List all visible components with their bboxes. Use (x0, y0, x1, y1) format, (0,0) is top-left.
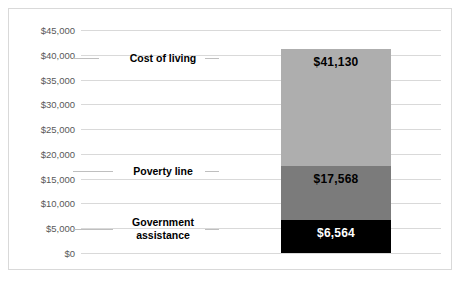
annotation-gov-assistance: Government assistance (113, 216, 213, 242)
y-axis-tick-label: $5,000 (46, 223, 75, 234)
y-axis-tick-label: $25,000 (41, 124, 75, 135)
bar-value-gov-assistance: $6,564 (317, 226, 355, 240)
gridline (81, 253, 441, 254)
annotation-cost-of-living: Cost of living (113, 52, 213, 65)
y-axis-tick-label: $15,000 (41, 173, 75, 184)
y-axis-tick-label: $10,000 (41, 198, 75, 209)
y-axis-tick-label: $45,000 (41, 25, 75, 36)
y-axis-tick-label: $35,000 (41, 74, 75, 85)
leader-line (73, 58, 99, 59)
y-axis-tick-label: $40,000 (41, 49, 75, 60)
y-axis-tick-label: $20,000 (41, 148, 75, 159)
annotation-poverty-line: Poverty line (113, 165, 213, 178)
stacked-bar[interactable]: $41,130 $17,568 $6,564 (281, 30, 391, 253)
y-axis-tick-label: $0 (64, 248, 75, 259)
bar-value-poverty-line: $17,568 (314, 172, 359, 186)
bar-value-cost-of-living: $41,130 (314, 55, 359, 69)
y-axis-tick-label: $30,000 (41, 99, 75, 110)
leader-line (73, 171, 113, 172)
leader-line (73, 229, 113, 230)
chart-frame: $45,000 $40,000 $35,000 $30,000 $25,000 … (8, 8, 452, 270)
y-axis: $45,000 $40,000 $35,000 $30,000 $25,000 … (17, 30, 75, 253)
bar-segment-gov-assistance[interactable]: $6,564 (281, 220, 391, 253)
